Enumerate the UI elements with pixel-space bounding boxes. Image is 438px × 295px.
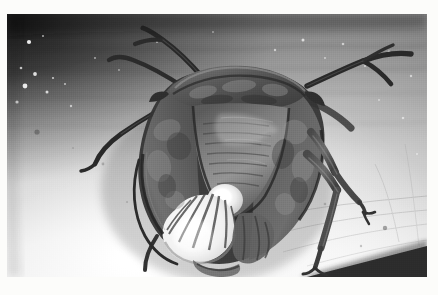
- photograph-canvas: [7, 14, 427, 277]
- screenshot-root: Black and white photograph of a shield b…: [0, 0, 438, 295]
- photograph: [7, 14, 427, 277]
- print-flare: [7, 14, 427, 277]
